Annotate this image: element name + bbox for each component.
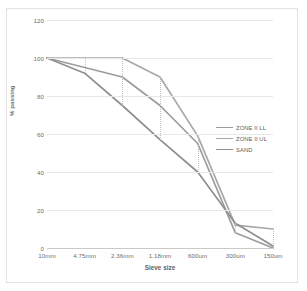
- y-axis-tick-label: 40: [37, 169, 44, 176]
- gridline-vertical-dotted: [122, 58, 123, 106]
- legend-color-swatch: [216, 149, 233, 150]
- x-axis-tick-label: 150um: [253, 252, 293, 260]
- gridline-horizontal: [47, 20, 273, 21]
- gridline-horizontal: [47, 210, 273, 211]
- legend-color-swatch: [216, 127, 233, 128]
- x-axis-tick-label: 4.75mm: [65, 252, 105, 260]
- y-axis-tick-label: 60: [37, 131, 44, 138]
- gridline-horizontal: [47, 58, 273, 59]
- y-axis-tick-label: 0: [40, 245, 44, 252]
- legend-item[interactable]: SAND: [216, 144, 300, 155]
- legend-item-label: ZONE II LL: [236, 125, 266, 131]
- gridline-vertical-dotted: [235, 223, 236, 233]
- gridline-vertical-dotted: [198, 136, 199, 172]
- gridline-vertical-dotted: [273, 229, 274, 248]
- legend-item-label: SAND: [236, 147, 253, 153]
- gridline-horizontal: [47, 172, 273, 173]
- legend-item-label: ZONE II UL: [236, 136, 267, 142]
- y-axis-tick-labels: 020406080100120: [22, 20, 44, 248]
- x-axis-tick-label: 1.18mm: [140, 252, 180, 260]
- gridline-vertical-dotted: [85, 58, 86, 73]
- x-axis-title: Sieve size: [47, 264, 273, 271]
- gridline-vertical-dotted: [160, 77, 161, 140]
- legend-item[interactable]: ZONE II LL: [216, 122, 300, 133]
- legend-item[interactable]: ZONE II UL: [216, 133, 300, 144]
- x-axis-tick-label: 2.36mm: [102, 252, 142, 260]
- x-axis-tick-label: 10mm: [27, 252, 67, 260]
- gridline-horizontal: [47, 248, 273, 249]
- chart-legend: ZONE II LLZONE II ULSAND: [216, 122, 300, 155]
- y-axis-tick-label: 80: [37, 93, 44, 100]
- y-axis-tick-label: 120: [33, 17, 44, 24]
- x-axis-tick-labels: 10mm4.75mm2.36mm1.18mm600um300um150um: [47, 250, 273, 262]
- y-axis-tick-label: 20: [37, 207, 44, 214]
- y-axis-title: % passing: [8, 85, 15, 116]
- x-axis-tick-label: 600um: [178, 252, 218, 260]
- chart-container: 020406080100120 % passing 10mm4.75mm2.36…: [0, 0, 307, 291]
- legend-color-swatch: [216, 138, 233, 139]
- y-axis-tick-label: 100: [33, 55, 44, 62]
- x-axis-tick-label: 300um: [215, 252, 255, 260]
